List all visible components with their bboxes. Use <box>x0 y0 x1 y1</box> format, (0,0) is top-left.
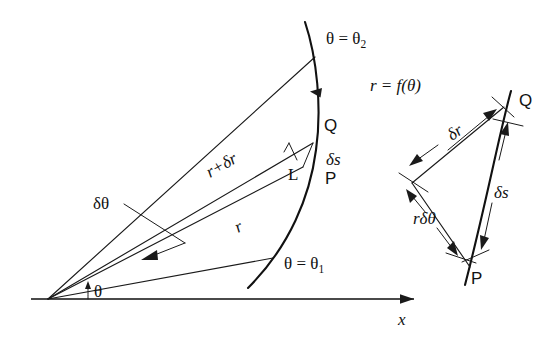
label-r: r <box>231 216 246 236</box>
label-inset-r-delta-theta: rδθ <box>413 209 436 228</box>
delta-theta-leader <box>124 204 185 260</box>
label-inset-point-q: Q <box>519 91 532 110</box>
ray-r <box>48 167 303 299</box>
label-delta-s-main: δs <box>326 150 341 169</box>
label-theta-origin: θ <box>94 282 102 301</box>
label-delta-theta: δθ <box>93 194 109 213</box>
inset-rdt-arrowhead-up <box>406 189 417 203</box>
origin-theta-marker <box>85 281 91 299</box>
figure-canvas: θ = θ2 r = f(θ) Q δs P L r+δr r δθ θ = θ… <box>0 0 554 340</box>
x-axis-arrowhead <box>400 294 414 304</box>
label-right-angle: L <box>288 165 298 184</box>
label-theta-equals-theta2: θ = θ2 <box>326 29 366 50</box>
label-x-axis: x <box>397 310 406 329</box>
label-inset-delta-s: δs <box>494 183 509 202</box>
inset-tick-p-right <box>462 250 489 262</box>
curve-direction-arrowhead <box>310 88 322 98</box>
inset-delta-r-arrowhead-left <box>409 154 423 166</box>
ray-r-plus-delta-r <box>48 143 313 299</box>
label-point-p-main: P <box>325 169 336 188</box>
label-point-q-main: Q <box>324 116 337 135</box>
ray-theta2 <box>48 57 315 299</box>
right-angle-tick <box>284 143 289 152</box>
inset-triangle-group: δr rδθ δs Q P <box>399 91 532 288</box>
label-inset-point-p: P <box>471 269 482 288</box>
delta-theta-arrowhead <box>141 250 158 260</box>
polar-area-diagram: θ = θ2 r = f(θ) Q δs P L r+δr r δθ θ = θ… <box>0 0 554 340</box>
inset-ds-arrow-line-down <box>484 203 492 240</box>
inset-tick-left <box>399 173 428 192</box>
label-curve-equation: r = f(θ) <box>370 76 421 95</box>
right-angle-leg <box>289 143 297 160</box>
inset-ds-arrowhead-down <box>480 235 489 250</box>
origin-theta-arrowhead <box>85 281 91 289</box>
label-theta-equals-theta1: θ = θ1 <box>284 254 324 275</box>
